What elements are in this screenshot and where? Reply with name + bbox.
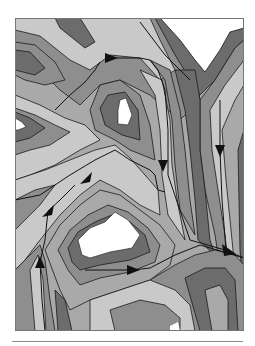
contour-bands xyxy=(15,18,244,331)
contour-flow-diagram xyxy=(0,0,255,346)
bottom-rule xyxy=(12,341,243,342)
